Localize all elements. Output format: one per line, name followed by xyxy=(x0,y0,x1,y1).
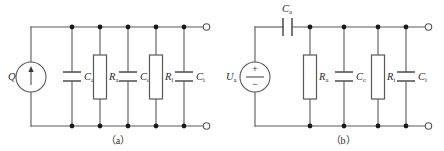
series-capacitor-ca-b: Ca xyxy=(282,3,292,36)
branch-ri-a: Ri xyxy=(150,25,174,129)
capacitor-cc-b-label: Cc xyxy=(356,71,366,82)
node-dot xyxy=(404,25,409,30)
node-dot xyxy=(404,124,409,129)
resistor-ra-a-label: Ra xyxy=(108,71,118,82)
panel-b-top-right-terminal xyxy=(425,24,431,30)
node-dot xyxy=(308,124,313,129)
panel-a: Q Ca Ra xyxy=(8,24,210,146)
source-plus-sign: + xyxy=(252,64,257,74)
panel-b-caption: （b） xyxy=(331,135,356,146)
node-dot xyxy=(376,124,381,129)
node-dot xyxy=(98,124,103,129)
node-dot xyxy=(70,25,75,30)
current-source-q: Q xyxy=(8,62,46,92)
branch-cc-a: Cc xyxy=(119,25,150,129)
capacitor-cc-a-label: Cc xyxy=(140,71,150,82)
voltage-source-ua: + − Ua xyxy=(226,62,270,92)
source-minus-sign: − xyxy=(252,79,257,89)
capacitor-ci-a-label: Ci xyxy=(196,71,205,82)
capacitor-ca-b-label: Ca xyxy=(282,3,292,14)
panel-a-top-right-terminal xyxy=(203,24,209,30)
node-dot xyxy=(154,124,159,129)
node-dot xyxy=(126,124,131,129)
node-dot xyxy=(376,25,381,30)
circuit-figure: Q Ca Ra xyxy=(0,0,444,151)
node-dot xyxy=(182,124,187,129)
branch-ra-a: Ra xyxy=(94,25,119,129)
branch-cc-b: Cc xyxy=(335,25,366,129)
capacitor-ci-b-label: Ci xyxy=(418,71,427,82)
capacitor-ca-a-label: Ca xyxy=(84,71,94,82)
branch-ci-b: Ci xyxy=(397,25,427,129)
panel-b: Ca + − Ua Ra xyxy=(226,3,432,146)
source-label-q: Q xyxy=(8,71,16,82)
panel-a-caption: （a） xyxy=(106,135,130,146)
resistor-ra-b-body xyxy=(304,55,317,99)
branch-ri-b: Ri xyxy=(372,25,396,129)
branch-ci-a: Ci xyxy=(175,25,205,129)
node-dot xyxy=(308,25,313,30)
resistor-ra-a-body xyxy=(94,55,107,99)
node-dot xyxy=(342,124,347,129)
node-dot xyxy=(126,25,131,30)
node-dot xyxy=(70,124,75,129)
panel-a-bottom-right-terminal xyxy=(203,123,209,129)
node-dot xyxy=(342,25,347,30)
resistor-ri-a-label: Ri xyxy=(164,71,173,82)
resistor-ri-b-label: Ri xyxy=(386,71,395,82)
resistor-ra-b-label: Ra xyxy=(318,71,328,82)
source-label-ua: Ua xyxy=(226,71,237,82)
branch-ca-a: Ca xyxy=(63,25,94,129)
branch-ra-b: Ra xyxy=(304,25,329,129)
resistor-ri-a-body xyxy=(150,55,163,99)
node-dot xyxy=(98,25,103,30)
panel-b-bottom-right-terminal xyxy=(425,123,431,129)
resistor-ri-b-body xyxy=(372,55,385,99)
node-dot xyxy=(182,25,187,30)
node-dot xyxy=(154,25,159,30)
